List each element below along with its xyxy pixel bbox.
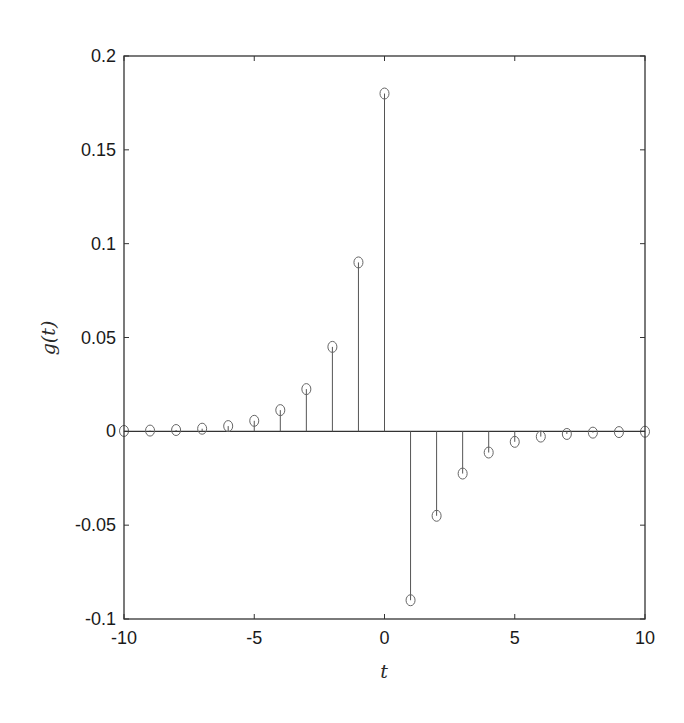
x-tick-label: -5 (246, 628, 262, 648)
x-axis-ticks: -10-50510 (111, 56, 655, 648)
y-tick-label: -0.1 (85, 609, 116, 629)
x-tick-label: 5 (510, 628, 520, 648)
y-tick-label: 0.05 (81, 328, 116, 348)
stem-plot: -10-50510 -0.1-0.0500.050.10.150.2 t g(t… (0, 0, 684, 723)
x-tick-label: -10 (111, 628, 137, 648)
x-tick-label: 10 (635, 628, 655, 648)
y-axis-ticks: -0.1-0.0500.050.10.150.2 (75, 46, 645, 629)
y-axis-label: g(t) (37, 321, 59, 356)
x-tick-label: 0 (379, 628, 389, 648)
y-tick-label: 0 (106, 421, 116, 441)
x-axis-label: t (380, 660, 388, 682)
y-tick-label: 0.1 (91, 234, 116, 254)
y-tick-label: 0.15 (81, 140, 116, 160)
y-tick-label: 0.2 (91, 46, 116, 66)
y-tick-label: -0.05 (75, 515, 116, 535)
stem-series (120, 88, 650, 606)
